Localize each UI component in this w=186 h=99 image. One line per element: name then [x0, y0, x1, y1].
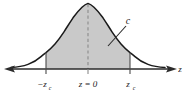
- z-axis-label: z: [177, 64, 182, 74]
- figure-container: c −z c z = 0 z c z: [0, 0, 186, 99]
- area-label-c: c: [126, 15, 131, 26]
- tick-label-positive-zc-subscript: c: [133, 85, 136, 91]
- tick-label-positive-zc-symbol: z: [125, 79, 130, 89]
- tick-label-positive-zc: z c: [125, 79, 135, 91]
- tick-label-center: z = 0: [78, 79, 98, 89]
- tick-label-negative-zc-subscript: c: [49, 85, 52, 91]
- tick-label-negative-zc-symbol: −z: [37, 79, 47, 89]
- standard-normal-curve-figure: c −z c z = 0 z c z: [0, 0, 186, 99]
- tick-label-negative-zc: −z c: [37, 79, 51, 91]
